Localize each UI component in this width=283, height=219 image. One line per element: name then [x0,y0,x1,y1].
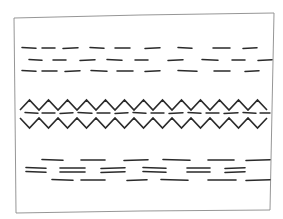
dash-stroke [169,113,183,114]
dash-stroke [25,113,38,114]
lower-zigzag-line [20,118,267,128]
dash-stroke [243,48,257,49]
dash-stroke [246,160,270,161]
dash-stroke [143,168,166,169]
zigzag-center-dashes [25,113,270,114]
dash-stroke [225,168,245,169]
dash-stroke [127,180,147,181]
dash-stroke [225,172,245,173]
dash-stroke [133,113,146,114]
dash-stroke [80,60,95,61]
dash-stroke [26,168,46,169]
top-dash-band [22,48,272,72]
dash-stroke [202,60,218,61]
bottom-dash-band [26,160,270,181]
dash-stroke [60,113,73,114]
dash-stroke [143,172,166,173]
dash-stroke [78,113,92,114]
dash-stroke [63,48,78,49]
sketch-canvas [0,0,283,219]
dash-stroke [161,180,188,181]
zigzag-band [20,100,270,128]
upper-zigzag-line [20,100,267,110]
dash-stroke [224,113,238,114]
dash-stroke [26,172,46,173]
dash-stroke [91,71,107,72]
dash-stroke [22,48,36,49]
dash-stroke [107,60,122,61]
dash-stroke [101,172,125,173]
dash-stroke [29,60,42,61]
dash-stroke [124,160,148,161]
dash-stroke [115,113,128,114]
dash-stroke [65,71,80,72]
dash-stroke [168,60,183,61]
dash-stroke [22,71,36,72]
dash-stroke [178,71,197,72]
dash-stroke [178,48,192,49]
dash-stroke [163,160,190,161]
dash-stroke [145,48,160,49]
pattern-sketch [0,0,283,219]
dash-stroke [90,48,104,49]
dash-stroke [245,71,259,72]
dash-stroke [246,180,270,181]
dash-stroke [101,168,125,169]
dash-stroke [42,160,63,161]
dash-stroke [188,113,201,114]
dash-stroke [52,180,73,181]
dash-stroke [243,113,256,114]
dash-stroke [258,60,272,61]
dash-stroke [145,71,160,72]
